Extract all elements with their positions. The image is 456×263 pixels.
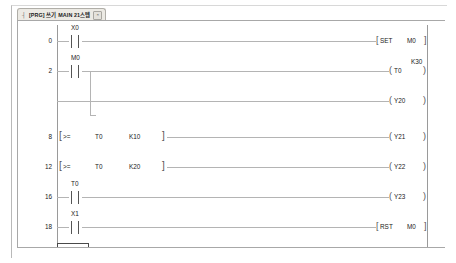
rung-step-number: 8 — [18, 133, 52, 141]
branch-wire — [90, 115, 96, 116]
instruction-open-bracket: [ — [376, 222, 379, 231]
ladder-diagram: 0X0[SETM0]2M0(T0K30)(Y20)8[>=T0K10](Y21)… — [18, 21, 445, 247]
coil-close-paren: ) — [423, 66, 426, 75]
rung-wire — [57, 227, 69, 228]
contact-bar-left — [71, 35, 72, 48]
compare-close-bracket: ] — [162, 161, 165, 171]
rung-wire — [57, 71, 69, 72]
contact-bar-right — [78, 191, 79, 204]
coil-close-paren: ) — [423, 96, 426, 105]
ladder-rung[interactable]: (Y20) — [18, 85, 445, 115]
instruction-close-bracket: ] — [424, 36, 427, 45]
contact-label: M0 — [71, 54, 80, 62]
contact-no[interactable] — [69, 35, 82, 48]
coil-open-paren: ( — [389, 192, 392, 201]
coil-open-paren: ( — [389, 96, 392, 105]
rung-wire — [57, 101, 389, 102]
compare-operand-a: T0 — [95, 163, 102, 171]
rung-wire — [167, 167, 389, 168]
ladder-rung[interactable]: 2M0(T0K30) — [18, 55, 445, 85]
contact-label: X1 — [71, 210, 79, 218]
contact-bar-left — [71, 191, 72, 204]
coil-open-paren: ( — [389, 66, 392, 75]
contact-bar-right — [78, 35, 79, 48]
ladder-rung[interactable]: 20[END] — [18, 241, 445, 248]
instruction-name[interactable]: SET — [380, 37, 392, 45]
coil-close-paren: ) — [423, 192, 426, 201]
rung-wire — [82, 41, 376, 42]
rung-wire — [57, 197, 69, 198]
rung-step-number: 18 — [18, 223, 52, 231]
ladder-rung[interactable]: 12[>=T0K20](Y22) — [18, 151, 445, 181]
contact-no[interactable] — [69, 191, 82, 204]
instruction-operand: M0 — [407, 37, 416, 45]
contact-label: X0 — [71, 24, 79, 32]
ladder-rung[interactable]: 8[>=T0K10](Y21) — [18, 121, 445, 151]
contact-label: T0 — [71, 180, 78, 188]
instruction-operand: M0 — [407, 223, 416, 231]
compare-operator: >= — [63, 133, 70, 141]
instruction-name[interactable]: RST — [380, 223, 393, 231]
rung-wire — [167, 137, 389, 138]
coil-preset-value: K30 — [411, 58, 422, 66]
contact-bar-right — [78, 221, 79, 234]
compare-operand-b: K20 — [129, 163, 140, 171]
contact-no[interactable] — [69, 221, 82, 234]
contact-bar-left — [71, 221, 72, 234]
cursor-selection-box[interactable] — [57, 243, 89, 248]
coil-label[interactable]: Y21 — [394, 133, 405, 141]
coil-open-paren: ( — [389, 132, 392, 141]
contact-no[interactable] — [69, 65, 82, 78]
compare-operand-b: K10 — [129, 133, 140, 141]
ladder-editor-window: ┤ [PRG] 쓰기 MAIN 21스텝 × 0X0[SETM0]2M0(T0K… — [0, 0, 456, 263]
tab-label: [PRG] 쓰기 MAIN 21스텝 — [29, 11, 90, 19]
contact-bar-left — [71, 65, 72, 78]
instruction-open-bracket: [ — [376, 36, 379, 45]
close-icon[interactable]: × — [93, 11, 102, 20]
coil-close-paren: ) — [423, 132, 426, 141]
coil-label[interactable]: Y20 — [394, 97, 405, 105]
rung-wire — [57, 41, 69, 42]
compare-close-bracket: ] — [162, 131, 165, 141]
rung-wire — [82, 197, 389, 198]
compare-open-bracket: [ — [59, 161, 62, 171]
ladder-rung[interactable]: 18X1[RSTM0] — [18, 211, 445, 241]
ladder-rung[interactable]: 16T0(Y23) — [18, 181, 445, 211]
rung-step-number: 12 — [18, 163, 52, 171]
rung-step-number: 0 — [18, 37, 52, 45]
instruction-close-bracket: ] — [424, 222, 427, 231]
coil-label[interactable]: T0 — [394, 67, 401, 75]
rung-wire — [82, 227, 376, 228]
rung-step-number: 2 — [18, 67, 52, 75]
coil-label[interactable]: Y23 — [394, 193, 405, 201]
rung-wire — [82, 71, 90, 72]
tab-prefix-icon: ┤ — [22, 12, 26, 18]
compare-operand-a: T0 — [95, 133, 102, 141]
coil-open-paren: ( — [389, 162, 392, 171]
rung-step-number: 16 — [18, 193, 52, 201]
ladder-rung[interactable]: 0X0[SETM0] — [18, 25, 445, 55]
ladder-canvas[interactable]: 0X0[SETM0]2M0(T0K30)(Y20)8[>=T0K10](Y21)… — [17, 20, 445, 248]
compare-operator: >= — [63, 163, 70, 171]
rung-wire — [90, 71, 389, 72]
coil-close-paren: ) — [423, 162, 426, 171]
contact-bar-right — [78, 65, 79, 78]
coil-label[interactable]: Y22 — [394, 163, 405, 171]
compare-open-bracket: [ — [59, 131, 62, 141]
